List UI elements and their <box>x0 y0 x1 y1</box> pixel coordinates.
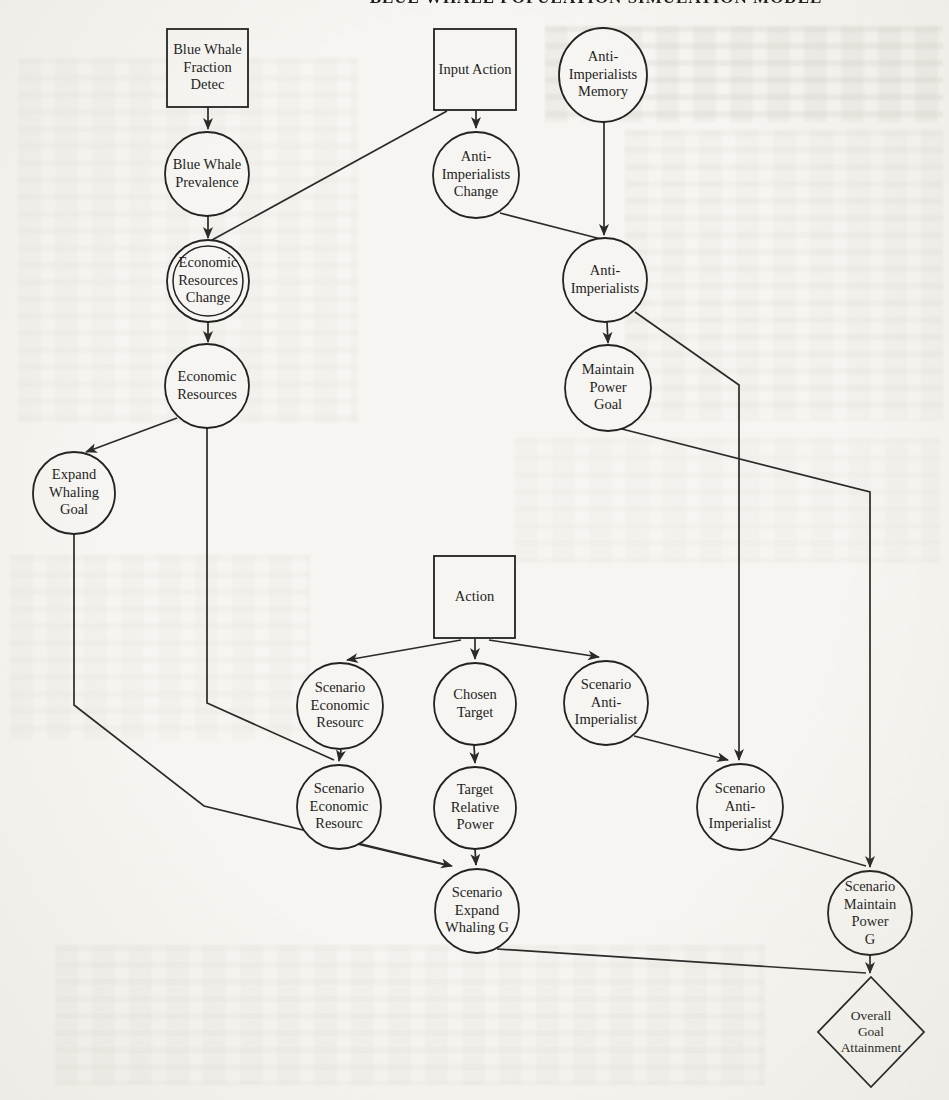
expand-whaling-goal-shape <box>33 452 115 534</box>
action-shape <box>434 556 515 638</box>
clipped-page-header-text: BLUE WHALE POPULATION SIMULATION MODEL <box>352 0 840 8</box>
edge-scenario-expand-whaling-g-to-overall-goal-attainment <box>497 949 866 973</box>
scenario-anti-imperialist-1-shape <box>564 661 648 745</box>
edge-action-to-scenario-economic-resourc-1 <box>347 640 461 660</box>
scenario-expand-whaling-g-shape <box>435 869 519 953</box>
edge-chosen-target-to-target-relative-power <box>474 745 475 763</box>
edge-expand-whaling-goal-to-scenario-expand-whaling-g <box>74 534 452 866</box>
edge-anti-imperialists-change-to-anti-imperialists <box>500 213 601 239</box>
scenario-economic-resourc-2-shape <box>297 765 381 849</box>
causal-network-diagram <box>0 0 949 1100</box>
scenario-maintain-power-g-shape <box>828 871 912 955</box>
chosen-target-shape <box>434 663 516 745</box>
blue-whale-prevalence-shape <box>165 132 249 216</box>
anti-imperialists-shape <box>563 238 647 322</box>
economic-resources-shape <box>165 344 249 428</box>
edge-scenario-economic-resourc-2-to-scenario-expand-whaling-g <box>353 843 450 866</box>
maintain-power-goal-shape <box>565 345 651 431</box>
scanned-book-page: BLUE WHALE POPULATION SIMULATION MODEL B… <box>0 0 949 1100</box>
economic-resources-change-shape <box>173 246 243 316</box>
edge-scenario-economic-resourc-1-to-scenario-economic-resourc-2 <box>339 750 341 761</box>
clipped-page-header: BLUE WHALE POPULATION SIMULATION MODEL <box>352 0 840 9</box>
nodes-layer <box>33 28 924 1087</box>
scenario-anti-imperialist-2-shape <box>697 764 783 850</box>
scenario-economic-resourc-1-shape <box>297 663 383 749</box>
edge-scenario-anti-imperialist-1-to-scenario-anti-imperialist-2 <box>634 736 728 760</box>
edge-target-relative-power-to-scenario-expand-whaling-g <box>475 849 476 865</box>
target-relative-power-shape <box>434 767 516 849</box>
overall-goal-attainment-shape <box>818 977 924 1087</box>
input-action-shape <box>434 29 516 110</box>
anti-imperialists-memory-shape <box>559 28 647 122</box>
edge-economic-resources-to-expand-whaling-goal <box>86 418 177 452</box>
edge-action-to-scenario-anti-imperialist-1 <box>489 640 599 657</box>
edge-anti-imperialists-to-maintain-power-goal <box>607 322 608 343</box>
anti-imperialists-change-shape <box>433 132 519 218</box>
edge-scenario-anti-imperialist-2-to-scenario-maintain-power-g <box>769 838 866 866</box>
blue-whale-fraction-detec-shape <box>167 29 248 107</box>
